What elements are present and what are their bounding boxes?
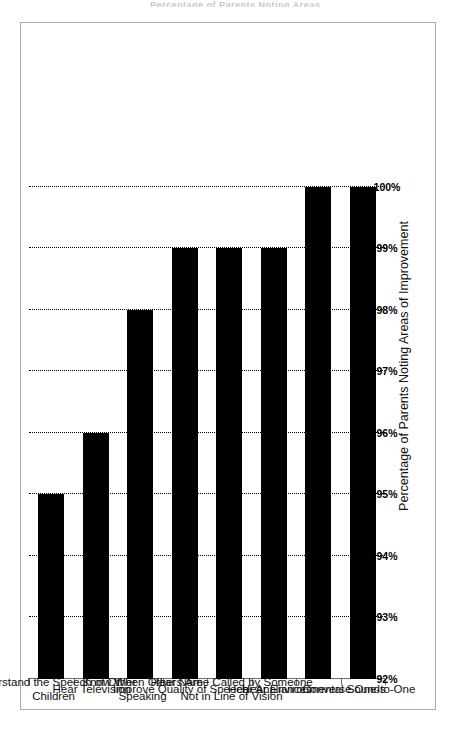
value-axis-tick-label: 100% (381, 157, 393, 217)
value-axis-tick-label: 94% (381, 526, 393, 586)
chart-frame: Percentage of Parents Noting Areas of Im… (20, 22, 436, 710)
value-axis-tick-label: 96% (381, 403, 393, 463)
value-axis-tick-label: 99% (381, 219, 393, 279)
cut-off-title-sliver: Percentage of Parents Noting Areas of Im… (150, 0, 320, 7)
value-axis-tick-label: 97% (381, 342, 393, 402)
value-axis-tick-label: 98% (381, 280, 393, 340)
value-axis-tick-label: 95% (381, 465, 393, 525)
category-axis-label: Converse One-to-One (278, 605, 448, 733)
rotated-chart-canvas: Percentage of Parents Noting Areas of Im… (21, 23, 435, 709)
